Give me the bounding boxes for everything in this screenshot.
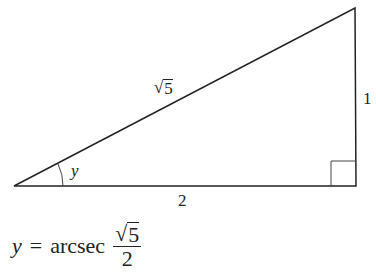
- formula-lhs: y: [12, 233, 22, 259]
- triangle: [14, 8, 356, 186]
- formula: y = arcsec √5 2: [12, 222, 141, 270]
- adjacent-label: 2: [178, 192, 187, 209]
- hypotenuse-label: √5: [154, 79, 173, 97]
- opposite-label: 1: [363, 90, 372, 107]
- formula-function: arcsec: [50, 233, 105, 259]
- angle-label: y: [71, 162, 79, 179]
- fraction-denominator: 2: [122, 247, 133, 270]
- formula-fraction: √5 2: [113, 222, 141, 270]
- formula-equals: =: [30, 233, 42, 259]
- angle-arc: [58, 164, 63, 186]
- fraction-numerator: √5: [113, 222, 141, 247]
- right-angle-marker: [331, 161, 356, 186]
